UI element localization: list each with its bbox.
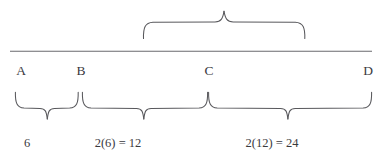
point-label-d: D xyxy=(363,64,373,78)
figure-canvas: A B C D 6 2(6) = 12 2(12) = 24 xyxy=(0,0,383,164)
point-label-b: B xyxy=(76,64,85,78)
point-label-a: A xyxy=(16,64,26,78)
segment-value-ab: 6 xyxy=(24,137,30,150)
segment-value-bc: 2(6) = 12 xyxy=(95,137,142,150)
segment-value-cd: 2(12) = 24 xyxy=(246,137,299,150)
point-label-c: C xyxy=(204,64,213,78)
label-layer: A B C D 6 2(6) = 12 2(12) = 24 xyxy=(0,0,383,164)
